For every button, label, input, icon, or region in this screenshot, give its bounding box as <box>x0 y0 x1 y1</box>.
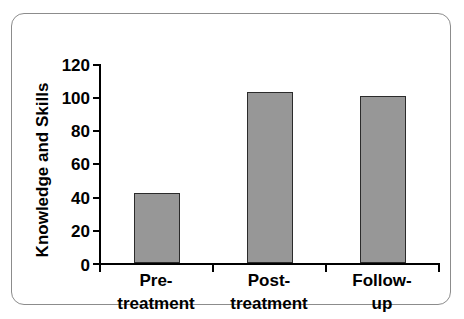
y-tick-mark-60 <box>93 163 100 165</box>
y-tick-label-40: 40 <box>50 190 90 207</box>
bar-post-treatment <box>247 92 293 263</box>
plot-area: Knowledge and Skills 120 100 80 60 40 20… <box>12 14 464 319</box>
x-axis-label-follow-up-line1: Follow- <box>307 270 457 293</box>
x-axis-label-follow-up: Follow- up <box>307 270 457 316</box>
y-tick-label-80: 80 <box>50 123 90 140</box>
y-tick-label-20: 20 <box>50 223 90 240</box>
x-axis-line <box>99 263 440 265</box>
x-axis-label-follow-up-line2: up <box>307 293 457 316</box>
y-tick-label-120: 120 <box>50 57 90 74</box>
y-tick-label-60: 60 <box>50 156 90 173</box>
y-tick-mark-40 <box>93 197 100 199</box>
bar-pre-treatment <box>134 193 180 263</box>
chart-frame: Knowledge and Skills 120 100 80 60 40 20… <box>11 13 451 305</box>
y-tick-mark-120 <box>93 64 100 66</box>
y-tick-mark-20 <box>93 230 100 232</box>
bar-follow-up <box>360 96 406 263</box>
y-tick-label-100: 100 <box>50 90 90 107</box>
y-tick-mark-100 <box>93 97 100 99</box>
y-tick-mark-80 <box>93 130 100 132</box>
